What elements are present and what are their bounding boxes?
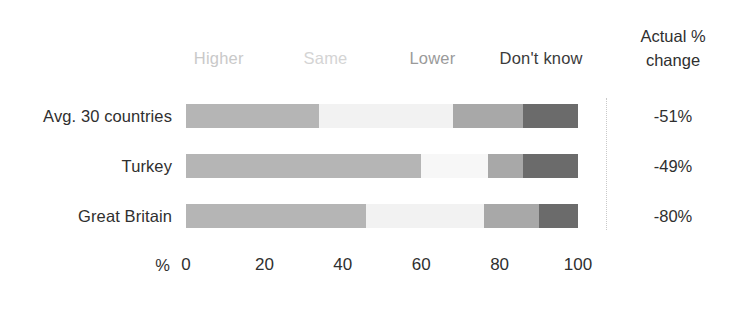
bar-segment-don-t-know (523, 154, 578, 178)
legend-item-lower: Lower (409, 47, 455, 69)
row-label: Turkey (0, 148, 172, 184)
actual-change-header-line-2: change (608, 48, 738, 72)
axis-unit-label: % (130, 252, 170, 278)
chart-row: Turkey-49% (0, 148, 743, 184)
x-axis-tick-label: 80 (490, 252, 509, 278)
x-axis-tick-label: 100 (564, 252, 592, 278)
actual-change-column-header: Actual % change (608, 24, 738, 72)
bar-segment-don-t-know (539, 204, 578, 228)
actual-change-value: -51% (608, 98, 738, 134)
bar-segment-same (421, 154, 488, 178)
x-axis-tick-label: 20 (255, 252, 274, 278)
bar-segment-higher (186, 104, 319, 128)
actual-change-header-line-1: Actual % (608, 24, 738, 48)
stacked-bar-chart: HigherSameLowerDon't know Actual % chang… (0, 0, 743, 311)
chart-row: Avg. 30 countries-51% (0, 98, 743, 134)
bar-segment-higher (186, 204, 366, 228)
stacked-bar (186, 204, 578, 228)
x-axis: % 020406080100 (0, 252, 743, 280)
column-separator-line (606, 98, 607, 230)
x-axis-tick-label: 60 (412, 252, 431, 278)
actual-change-value: -49% (608, 148, 738, 184)
bar-segment-lower (488, 154, 523, 178)
x-axis-tick-label: 40 (333, 252, 352, 278)
row-label: Avg. 30 countries (0, 98, 172, 134)
x-axis-tick-label: 0 (181, 252, 190, 278)
bar-segment-lower (453, 104, 524, 128)
legend-item-same: Same (304, 47, 348, 69)
legend-item-don-t-know: Don't know (500, 47, 583, 69)
legend-item-higher: Higher (194, 47, 244, 69)
bar-segment-don-t-know (523, 104, 578, 128)
bar-segment-higher (186, 154, 421, 178)
chart-legend: HigherSameLowerDon't know (186, 47, 578, 73)
stacked-bar (186, 154, 578, 178)
row-label: Great Britain (0, 198, 172, 234)
bar-segment-lower (484, 204, 539, 228)
bar-segment-same (366, 204, 484, 228)
chart-row: Great Britain-80% (0, 198, 743, 234)
bar-segment-same (319, 104, 452, 128)
actual-change-value: -80% (608, 198, 738, 234)
stacked-bar (186, 104, 578, 128)
